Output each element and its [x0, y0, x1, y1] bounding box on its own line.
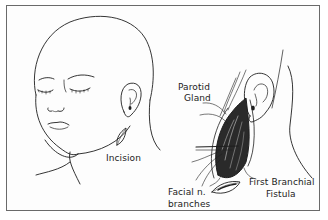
label-fistula-line1: First Branchial: [249, 177, 315, 187]
child-head-drawing: [34, 16, 160, 184]
surgical-view-drawing: [192, 50, 312, 193]
label-incision: Incision: [106, 153, 141, 163]
label-facial-line2: branches: [168, 199, 210, 209]
label-parotid-line1: Parotid: [178, 82, 210, 92]
label-fistula-line2: Fistula: [266, 189, 296, 199]
label-facial-line1: Facial n.: [168, 187, 206, 197]
label-parotid-line2: Gland: [184, 93, 211, 103]
illustration: [0, 0, 328, 220]
